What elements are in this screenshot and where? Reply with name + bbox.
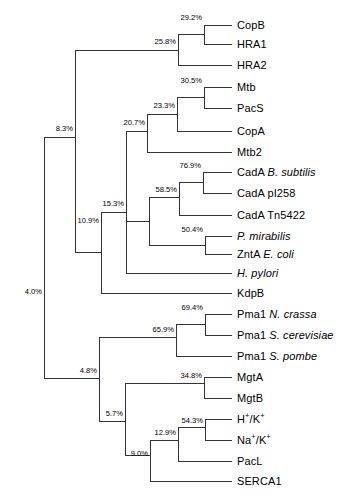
tip-label-pacs: PacS [237, 102, 264, 114]
support-label-n-4-0: 4.0% [25, 287, 42, 296]
support-label-n-4-8: 4.8% [80, 366, 97, 375]
support-label-n-50-4: 50.4% [181, 225, 203, 234]
tip-label-hra1: HRA1 [237, 38, 267, 50]
tip-label-copa: CopA [237, 125, 265, 137]
support-label-n-15-3: 15.3% [102, 199, 124, 208]
tip-label-pma1-scerev: Pma1 S. cerevisiae [237, 329, 334, 341]
tip-label-cada-pi258: CadA pI258 [237, 187, 296, 199]
support-label-n-20-7: 20.7% [123, 118, 145, 127]
tip-label-pacl: PacL [237, 455, 262, 467]
tree-branches-svg [0, 0, 346, 502]
support-label-n-34-8: 34.8% [180, 371, 202, 380]
support-label-n-10-9: 10.9% [77, 216, 99, 225]
support-label-n-25-8: 25.8% [154, 37, 176, 46]
tip-label-hra2: HRA2 [237, 59, 267, 71]
tip-label-mgta: MgtA [237, 371, 263, 383]
tip-label-cada-bsub: CadA B. subtilis [237, 166, 316, 178]
support-label-n-69-4: 69.4% [181, 303, 203, 312]
support-label-n-29-2: 29.2% [180, 13, 202, 22]
tip-label-p-mirabilis: P. mirabilis [237, 230, 291, 242]
support-label-n-23-3: 23.3% [153, 101, 175, 110]
support-label-n-65-9: 65.9% [152, 325, 174, 334]
support-label-n-58-5: 58.5% [155, 185, 177, 194]
tip-label-znta-ecoli: ZntA E. coli [237, 248, 294, 260]
tip-label-copb: CopB [237, 19, 265, 31]
support-label-n-12-9: 12.9% [154, 428, 176, 437]
tip-label-na-k: Na+/K+ [237, 434, 271, 446]
support-label-n-9-0: 9.0% [131, 449, 148, 458]
tip-label-kdpb: KdpB [237, 287, 264, 299]
tip-label-mtb2: Mtb2 [237, 146, 262, 158]
support-label-n-8-3: 8.3% [56, 124, 73, 133]
tip-label-pma1-spombe: Pma1 S. pombe [237, 350, 317, 362]
support-label-n-5-7: 5.7% [106, 409, 123, 418]
phylogenetic-tree-figure: CopBHRA1HRA2MtbPacSCopAMtb2CadA B. subti… [0, 0, 346, 502]
tip-label-h-k: H+/K+ [237, 413, 265, 425]
tip-label-pma1-ncrassa: Pma1 N. crassa [237, 308, 317, 320]
support-label-n-30-5: 30.5% [180, 76, 202, 85]
support-label-n-54-3: 54.3% [181, 416, 203, 425]
tip-label-mgtb: MgtB [237, 392, 263, 404]
tip-label-cada-tn5422: CadA Tn5422 [237, 209, 305, 221]
tip-label-serca1: SERCA1 [237, 475, 282, 487]
tip-label-mtb: Mtb [237, 81, 256, 93]
tip-label-h-pylori: H. pylori [237, 267, 278, 279]
support-label-n-76-9: 76.9% [179, 161, 201, 170]
